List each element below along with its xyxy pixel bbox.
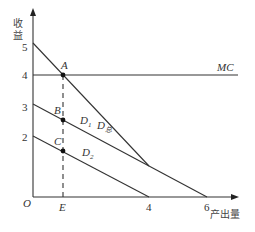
y-axis-label-2: 益 <box>13 29 23 41</box>
y-tick-5: 5 <box>22 41 28 53</box>
d2-line <box>33 136 149 197</box>
origin-label: O <box>23 197 31 209</box>
mc-label: MC <box>216 61 234 73</box>
point-a <box>61 73 66 78</box>
point-c <box>61 149 66 154</box>
point-c-label: C <box>54 135 62 147</box>
d1-line <box>33 104 207 197</box>
d-total-line <box>33 43 149 166</box>
x-tick-4: 4 <box>146 201 152 213</box>
point-b <box>61 118 66 123</box>
d-total-label: D总 <box>96 119 112 134</box>
point-b-label: B <box>54 104 61 116</box>
economics-diagram: 收 益 产出量 O 5 4 3 2 E 4 6 MC D总 D1 D2 A B … <box>0 0 255 232</box>
y-tick-3: 3 <box>22 101 28 113</box>
y-axis-label-1: 收 <box>13 17 23 29</box>
point-a-label: A <box>60 59 68 71</box>
x-axis-arrow-icon <box>231 194 239 200</box>
d1-label: D1 <box>79 114 91 129</box>
x-axis-label: 产出量 <box>210 208 240 220</box>
y-axis-arrow-icon <box>30 8 36 16</box>
x-tick-6: 6 <box>204 201 210 213</box>
d2-label: D2 <box>81 146 94 161</box>
y-tick-4: 4 <box>22 69 28 81</box>
y-tick-2: 2 <box>22 131 28 143</box>
x-tick-e: E <box>58 201 66 213</box>
